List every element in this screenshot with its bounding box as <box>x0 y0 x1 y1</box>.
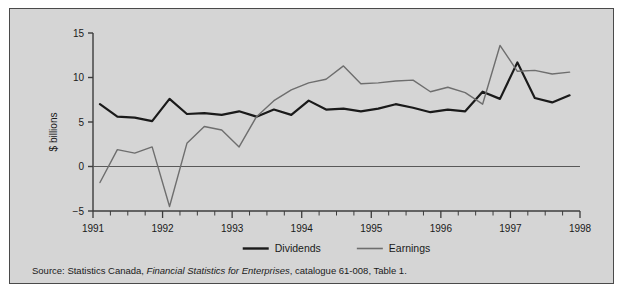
x-tick-label: 1992 <box>151 223 174 234</box>
y-tick-label: 5 <box>78 117 84 128</box>
x-tick-label: 1993 <box>221 223 244 234</box>
x-tick-label: 1996 <box>430 223 453 234</box>
line-chart: $ billions −5051015 19911992199319941995… <box>10 9 613 283</box>
source-note: Source: Statistics Canada, Financial Sta… <box>32 265 407 276</box>
source-publication-title: Financial Statistics for Enterprises <box>147 265 290 276</box>
y-tick-label: 15 <box>73 28 85 39</box>
series-line-dividends <box>100 62 570 121</box>
legend-label-dividends: Dividends <box>275 242 321 254</box>
source-prefix: Source: Statistics Canada, <box>32 265 147 276</box>
y-tick-label: 10 <box>73 72 85 83</box>
y-tick-label: −5 <box>73 206 85 217</box>
x-tick-label: 1991 <box>82 223 105 234</box>
series-lines <box>100 45 570 206</box>
series-line-earnings <box>100 45 570 206</box>
y-tick-label: 0 <box>78 161 84 172</box>
x-axis-ticks: 19911992199319941995199619971998 <box>82 211 592 234</box>
x-tick-label: 1995 <box>360 223 383 234</box>
chart-panel: $ billions −5051015 19911992199319941995… <box>9 8 614 284</box>
x-tick-label: 1998 <box>569 223 592 234</box>
x-tick-label: 1997 <box>499 223 522 234</box>
figure-container: $ billions −5051015 19911992199319941995… <box>0 0 623 292</box>
source-suffix: , catalogue 61-008, Table 1. <box>290 265 407 276</box>
legend-label-earnings: Earnings <box>389 242 430 254</box>
y-axis-label: $ billions <box>48 113 59 152</box>
x-tick-label: 1994 <box>291 223 314 234</box>
chart-legend: DividendsEarnings <box>243 242 431 254</box>
y-axis-ticks: −5051015 <box>73 28 93 217</box>
